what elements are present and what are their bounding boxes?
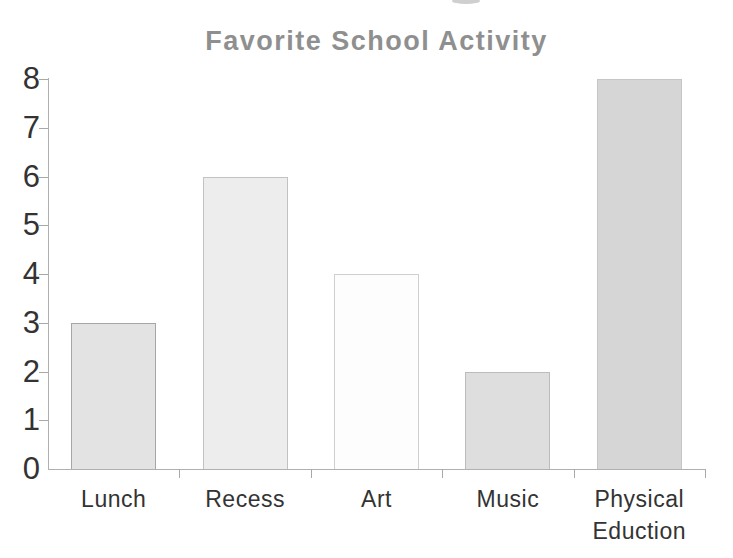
- bar-art: [334, 274, 419, 469]
- y-tick-label-8: 8: [0, 60, 40, 98]
- x-label-line: Physical: [574, 483, 705, 515]
- y-tick-mark-1: [39, 420, 48, 421]
- x-label-line: Recess: [179, 483, 310, 515]
- y-axis: [48, 78, 49, 470]
- x-label-line: Eduction: [574, 515, 705, 547]
- x-tick-mark-4: [574, 469, 575, 478]
- y-tick-label-7: 7: [0, 109, 40, 147]
- x-axis: [48, 469, 706, 470]
- bar-physical-eduction: [597, 79, 682, 469]
- x-label-lunch: Lunch: [48, 483, 179, 515]
- y-tick-label-3: 3: [0, 304, 40, 342]
- y-tick-label-4: 4: [0, 255, 40, 293]
- x-label-recess: Recess: [179, 483, 310, 515]
- x-label-line: Art: [311, 483, 442, 515]
- y-tick-label-6: 6: [0, 158, 40, 196]
- y-tick-label-5: 5: [0, 206, 40, 244]
- y-tick-label-2: 2: [0, 353, 40, 391]
- y-tick-label-1: 1: [0, 401, 40, 439]
- x-tick-mark-2: [311, 469, 312, 478]
- y-tick-mark-5: [39, 225, 48, 226]
- y-tick-mark-3: [39, 323, 48, 324]
- x-label-line: Music: [442, 483, 573, 515]
- bar-music: [465, 372, 550, 470]
- y-tick-mark-8: [39, 79, 48, 80]
- x-tick-mark-1: [179, 469, 180, 478]
- x-label-physical-eduction: PhysicalEduction: [574, 483, 705, 547]
- x-tick-mark-3: [442, 469, 443, 478]
- y-tick-mark-2: [39, 372, 48, 373]
- y-tick-mark-4: [39, 274, 48, 275]
- scan-artifact: [452, 0, 480, 4]
- bar-lunch: [71, 323, 156, 469]
- y-tick-label-0: 0: [0, 450, 40, 488]
- bar-recess: [203, 177, 288, 470]
- y-tick-mark-7: [39, 128, 48, 129]
- bar-chart: Favorite School Activity 012345678 Lunch…: [0, 0, 733, 558]
- x-label-line: Lunch: [48, 483, 179, 515]
- x-label-art: Art: [311, 483, 442, 515]
- x-tick-mark-5: [705, 469, 706, 478]
- y-tick-mark-6: [39, 177, 48, 178]
- x-label-music: Music: [442, 483, 573, 515]
- chart-title: Favorite School Activity: [48, 26, 705, 57]
